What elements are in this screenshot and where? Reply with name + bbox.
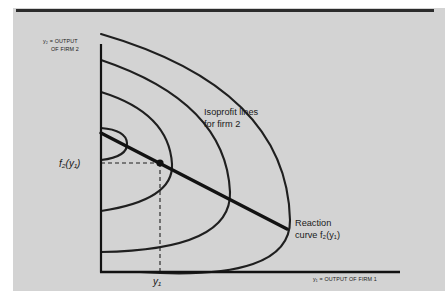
reaction-annotation-line2: curve f₂(y₁) [295, 230, 340, 240]
figure-container: y₂ = OUTPUT OF FIRM 2 y₁ = OUTPUT OF FIR… [0, 0, 445, 299]
x-tick-label: y₁ [152, 276, 161, 287]
y-tick-label: f₂(y₁) [59, 158, 80, 169]
duopoly-isoprofit-diagram: y₂ = OUTPUT OF FIRM 2 y₁ = OUTPUT OF FIR… [0, 0, 445, 299]
y-axis-label-line2: OF FIRM 2 [51, 46, 79, 52]
isoprofit-annotation-line1: Isoprofit lines [204, 107, 259, 117]
y-axis-label-line1: y₂ = OUTPUT [43, 38, 78, 44]
reaction-annotation-line1: Reaction [295, 218, 331, 228]
x-axis-label: y₁ = OUTPUT OF FIRM 1 [313, 276, 377, 282]
isoprofit-annotation-line2: for firm 2 [204, 119, 240, 129]
top-rule [16, 9, 434, 12]
tangency-point [156, 159, 163, 166]
